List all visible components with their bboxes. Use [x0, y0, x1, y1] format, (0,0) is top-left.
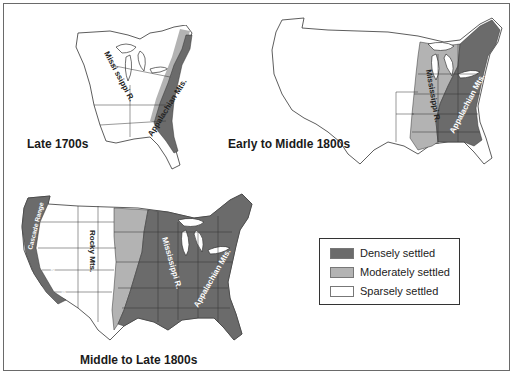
rocky-label: Rocky Mts. — [88, 230, 97, 272]
map-mid-late-1800s-shape: Cascade Range Sierra Nevada Rocky Mts. M… — [18, 192, 258, 342]
map-late-1700s: Missi ssippi R. Appalachian Mts. — [70, 25, 200, 170]
legend-label: Moderately settled — [360, 266, 450, 278]
legend: Densely settled Moderately settled Spars… — [319, 238, 460, 305]
legend-item-moderate: Moderately settled — [330, 265, 450, 279]
legend-label: Densely settled — [360, 247, 435, 259]
caption-late-1700s: Late 1700s — [27, 137, 88, 151]
legend-label: Sparsely settled — [360, 285, 438, 297]
caption-early-mid-1800s: Early to Middle 1800s — [228, 137, 350, 151]
legend-item-dense: Densely settled — [330, 246, 435, 260]
map-mid-late-1800s: Cascade Range Sierra Nevada Rocky Mts. M… — [18, 192, 258, 342]
swatch-moderate — [330, 267, 354, 278]
map-late-1700s-shape: Missi ssippi R. Appalachian Mts. — [70, 25, 200, 170]
swatch-dense — [330, 248, 354, 259]
caption-mid-late-1800s: Middle to Late 1800s — [80, 353, 197, 367]
swatch-sparse — [330, 286, 354, 297]
legend-item-sparse: Sparsely settled — [330, 284, 438, 298]
